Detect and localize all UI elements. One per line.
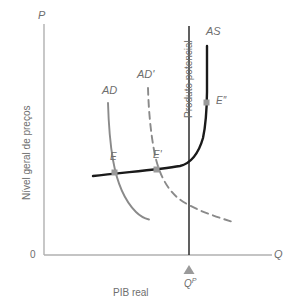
equilibrium-label-e: E [110, 152, 117, 162]
y-axis-title: Nível geral de preços [22, 106, 32, 201]
ad-curve-label: AD [102, 85, 117, 96]
ad-prime-curve-label: AD' [137, 69, 154, 80]
equilibrium-label-e-prime: E' [153, 150, 162, 160]
equilibrium-marker-e-double-prime [204, 100, 210, 106]
x-axis-symbol: Q [274, 249, 283, 260]
y-axis-symbol: P [38, 10, 45, 21]
potential-output-label: Produto potencial [184, 40, 194, 118]
potential-output-tick-superscript: P [192, 277, 197, 284]
x-axis-title: PIB real [113, 288, 149, 298]
equilibrium-marker-e [112, 170, 118, 176]
chart-canvas [0, 0, 288, 303]
origin-label: 0 [30, 250, 36, 260]
ad-as-diagram: P Q 0 Nível geral de preços PIB real Pro… [0, 0, 288, 303]
equilibrium-label-e-double-prime: E″ [216, 96, 226, 106]
potential-output-tick-label: QP [184, 277, 196, 289]
potential-output-triangle-marker [184, 265, 195, 274]
as-curve-label: AS [206, 26, 221, 37]
equilibrium-marker-e-prime [154, 167, 160, 173]
potential-output-tick-text: Q [184, 278, 192, 289]
